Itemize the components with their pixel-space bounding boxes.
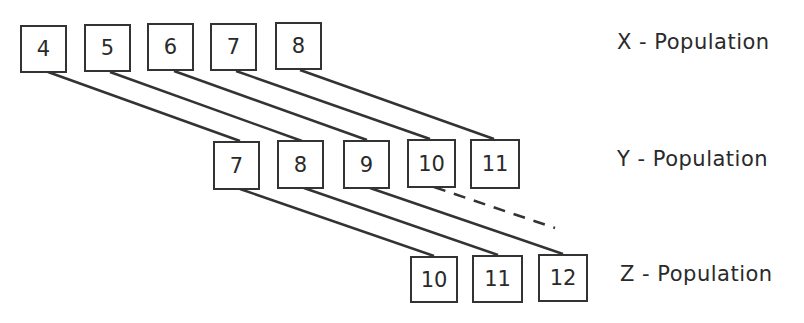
z-box-10: 10	[410, 256, 458, 303]
x-box-8: 8	[275, 22, 322, 70]
connector-y10-dashed	[434, 187, 555, 228]
z-population-label: Z - Population	[620, 262, 773, 286]
y-box-8: 8	[277, 140, 324, 189]
x-box-6: 6	[147, 23, 194, 71]
x-box-5: 5	[84, 24, 131, 72]
x-box-4: 4	[20, 25, 67, 73]
y-box-11: 11	[470, 139, 520, 189]
y-population-label: Y - Population	[617, 147, 768, 171]
y-box-7: 7	[213, 141, 260, 190]
x-population-label: X - Population	[617, 30, 770, 54]
y-box-9: 9	[343, 140, 390, 189]
z-box-11: 11	[472, 255, 523, 303]
y-box-10: 10	[407, 139, 456, 188]
z-box-12: 12	[538, 254, 588, 302]
x-box-7: 7	[210, 23, 257, 71]
connector-x4-y7	[48, 72, 240, 141]
